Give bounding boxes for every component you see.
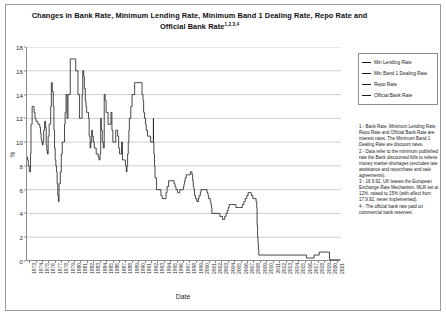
series-line bbox=[171, 172, 244, 220]
x-tick-label: 2020 bbox=[332, 263, 338, 274]
x-tick-label: 1986 bbox=[114, 263, 120, 274]
x-tick-label: 2006 bbox=[243, 263, 249, 274]
legend-swatch bbox=[362, 84, 371, 85]
y-tick-mark bbox=[24, 47, 26, 48]
y-tick-mark bbox=[24, 165, 26, 166]
y-tick-mark bbox=[24, 237, 26, 238]
x-tick-label: 1997 bbox=[185, 263, 191, 274]
footnote-item: 2 - Data refer to the minimum published … bbox=[359, 149, 439, 179]
page-title: Changes in Bank Rate, Minimum Lending Ra… bbox=[22, 11, 377, 32]
legend-item: Official Bank Rate bbox=[361, 90, 435, 101]
x-tick-label: 2001 bbox=[211, 263, 217, 274]
y-axis-title: % bbox=[8, 47, 18, 261]
plot-area bbox=[26, 47, 340, 261]
y-tick-mark bbox=[24, 118, 26, 119]
x-tick-label: 1993 bbox=[159, 263, 165, 274]
legend-label: Repo Rate bbox=[374, 82, 397, 87]
x-tick-label: 2021 bbox=[339, 263, 345, 274]
x-tick-label: 1979 bbox=[70, 263, 76, 274]
x-tick-label: 2004 bbox=[230, 263, 236, 274]
y-tick-mark bbox=[24, 189, 26, 190]
y-tick-label: 8 bbox=[20, 162, 23, 169]
chart-legend: Min Lending RateMin Band 1 Dealing RateR… bbox=[358, 53, 438, 105]
legend-swatch bbox=[362, 73, 371, 74]
x-axis-labels: 1973197419751976197719781979198019811982… bbox=[26, 263, 340, 289]
x-tick-label: 1978 bbox=[63, 263, 69, 274]
x-tick-label: 2013 bbox=[287, 263, 293, 274]
x-tick-label: 1977 bbox=[57, 263, 63, 274]
x-tick-label: 2016 bbox=[307, 263, 313, 274]
y-tick-mark bbox=[24, 94, 26, 95]
footnotes: 1 - Bank Rate, Minimum Lending Rate, Rep… bbox=[359, 124, 439, 216]
x-tick-label: 1992 bbox=[153, 263, 159, 274]
chart-canvas bbox=[27, 47, 341, 261]
x-tick-label: 2008 bbox=[255, 263, 261, 274]
y-tick-label: 0 bbox=[20, 258, 23, 265]
legend-item: Min Lending Rate bbox=[361, 57, 435, 68]
chart-title-superscript: 1,2,3,4 bbox=[225, 21, 240, 26]
x-tick-label: 1989 bbox=[134, 263, 140, 274]
x-tick-label: 1974 bbox=[38, 263, 44, 274]
x-tick-label: 1981 bbox=[82, 263, 88, 274]
x-tick-label: 1996 bbox=[178, 263, 184, 274]
series-line bbox=[84, 83, 171, 199]
x-tick-label: 2003 bbox=[223, 263, 229, 274]
x-tick-label: 1988 bbox=[127, 263, 133, 274]
footnote-item: 3 - 16.9.92, UK leaves the European Exch… bbox=[359, 179, 439, 203]
x-tick-label: 1998 bbox=[191, 263, 197, 274]
x-tick-label: 2015 bbox=[300, 263, 306, 274]
x-tick-label: 1975 bbox=[44, 263, 50, 274]
x-tick-label: 2019 bbox=[326, 263, 332, 274]
gridlines bbox=[27, 47, 341, 237]
x-tick-label: 1982 bbox=[89, 263, 95, 274]
x-tick-label: 2000 bbox=[204, 263, 210, 274]
series-line bbox=[244, 193, 340, 260]
x-tick-label: 1983 bbox=[95, 263, 101, 274]
x-tick-label: 2010 bbox=[268, 263, 274, 274]
legend-label: Min Lending Rate bbox=[374, 60, 412, 65]
y-tick-label: 6 bbox=[20, 186, 23, 193]
y-tick-mark bbox=[24, 70, 26, 71]
y-tick-mark bbox=[24, 142, 26, 143]
y-tick-label: 14 bbox=[16, 91, 23, 98]
chart-title-text: Changes in Bank Rate, Minimum Lending Ra… bbox=[32, 11, 368, 31]
x-tick-label: 1973 bbox=[31, 263, 37, 274]
y-tick-label: 10 bbox=[16, 139, 23, 146]
chart-page: Changes in Bank Rate, Minimum Lending Ra… bbox=[0, 0, 446, 316]
series-line bbox=[27, 59, 84, 202]
legend-item: Min Band 1 Dealing Rate bbox=[361, 68, 435, 79]
x-tick-label: 2014 bbox=[294, 263, 300, 274]
y-tick-mark bbox=[24, 213, 26, 214]
legend-swatch bbox=[362, 62, 371, 63]
x-tick-label: 1991 bbox=[146, 263, 152, 274]
series-lines bbox=[27, 59, 340, 260]
legend-label: Official Bank Rate bbox=[374, 93, 412, 98]
footnote-item: 4 - The official bank rate paid on comme… bbox=[359, 204, 439, 216]
x-tick-label: 2005 bbox=[236, 263, 242, 274]
y-tick-label: 12 bbox=[16, 115, 23, 122]
x-tick-label: 2011 bbox=[275, 263, 281, 274]
legend-swatch bbox=[362, 95, 371, 96]
x-tick-label: 1994 bbox=[166, 263, 172, 274]
x-tick-label: 2009 bbox=[262, 263, 268, 274]
x-tick-label: 1976 bbox=[50, 263, 56, 274]
x-tick-label: 1987 bbox=[121, 263, 127, 274]
x-tick-label: 1984 bbox=[102, 263, 108, 274]
plot-wrapper: 024681012141618 bbox=[26, 47, 340, 261]
y-tick-label: 18 bbox=[16, 44, 23, 51]
y-tick-label: 4 bbox=[20, 210, 23, 217]
x-axis-title: Date bbox=[26, 293, 340, 300]
footnote-item: 1 - Bank Rate, Minimum Lending Rate, Rep… bbox=[359, 124, 439, 148]
y-tick-label: 2 bbox=[20, 234, 23, 241]
x-tick-label: 1999 bbox=[198, 263, 204, 274]
x-tick-label: 2018 bbox=[319, 263, 325, 274]
legend-item: Repo Rate bbox=[361, 79, 435, 90]
y-tick-label: 16 bbox=[16, 67, 23, 74]
legend-label: Min Band 1 Dealing Rate bbox=[374, 71, 427, 76]
